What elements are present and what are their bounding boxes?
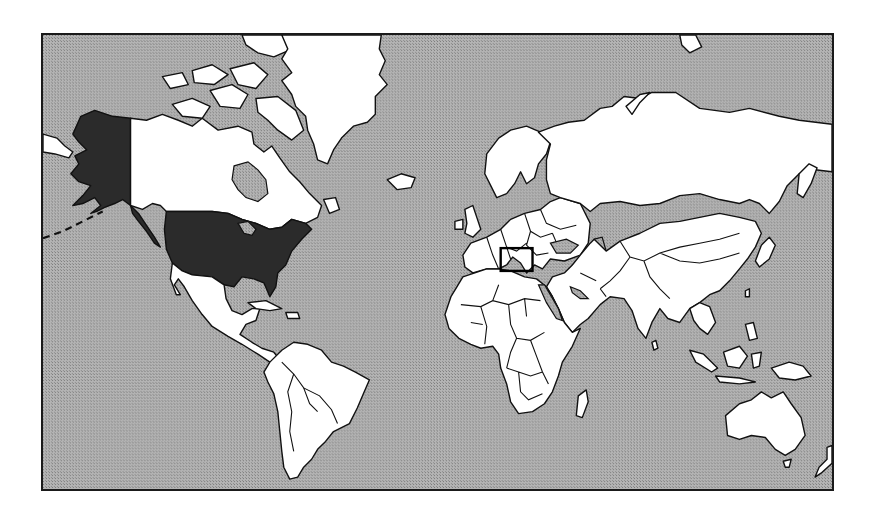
- taiwan: [745, 289, 749, 297]
- hispaniola: [286, 313, 300, 319]
- tasmania: [783, 459, 791, 467]
- world-map: [41, 33, 834, 491]
- sulawesi: [751, 352, 761, 368]
- world-map-svg: [43, 35, 832, 489]
- ireland: [455, 219, 463, 229]
- alaska: [71, 110, 131, 213]
